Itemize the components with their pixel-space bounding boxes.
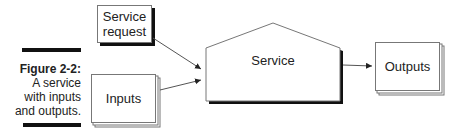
service-request-box: Service request bbox=[97, 5, 152, 43]
caption-line: A service bbox=[0, 76, 81, 90]
caption-top-rule bbox=[22, 48, 81, 52]
figure-caption: Figure 2-2: A service with inputs and ou… bbox=[0, 62, 81, 118]
outputs-box: Outputs bbox=[375, 42, 440, 91]
caption-line: and outputs. bbox=[0, 104, 81, 118]
figure-label: Figure 2-2: bbox=[0, 62, 81, 76]
service-label: Service bbox=[206, 53, 340, 68]
caption-bottom-rule bbox=[23, 123, 81, 127]
service-request-label-1: Service bbox=[103, 9, 146, 24]
inputs-box: Inputs bbox=[91, 74, 156, 123]
outputs-label: Outputs bbox=[385, 59, 431, 74]
service-request-label-2: request bbox=[103, 24, 146, 39]
arrow-service-to-outputs bbox=[343, 65, 372, 66]
caption-line: with inputs bbox=[0, 90, 81, 104]
arrow-inputs-to-service bbox=[160, 80, 201, 90]
arrow-request-to-service bbox=[153, 38, 201, 69]
inputs-label: Inputs bbox=[106, 91, 141, 106]
